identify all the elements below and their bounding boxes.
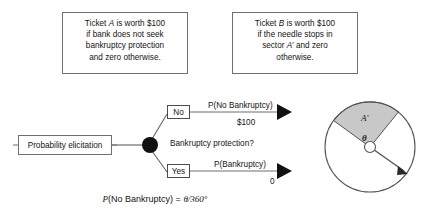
branch-option-no-label: No xyxy=(173,108,183,117)
figure-canvas: Ticket A is worth $100 if bank does not … xyxy=(0,0,436,219)
arrowhead-no-branch xyxy=(277,104,292,120)
formula-equals: = xyxy=(176,194,181,204)
formula-right-term: θ/360° xyxy=(183,194,207,204)
decision-node xyxy=(142,137,158,153)
probability-no-bankruptcy-label: P(No Bankruptcy) xyxy=(208,101,273,110)
edge-node-to-no xyxy=(152,114,167,139)
branch-option-yes[interactable]: Yes xyxy=(167,164,190,178)
probability-formula: PP(No Bankruptcy)(No Bankruptcy) = θ/360… xyxy=(0,194,310,204)
branch-option-yes-label: Yes xyxy=(172,167,185,176)
payoff-no-bankruptcy: $100 xyxy=(237,118,255,127)
probability-bankruptcy-label: P(Bankruptcy) xyxy=(214,160,266,169)
formula-left-text: (No Bankruptcy) xyxy=(108,194,173,204)
root-node-label: Probability elicitation xyxy=(28,141,103,150)
payoff-bankruptcy: 0 xyxy=(270,177,275,186)
wheel-needle-arrowhead xyxy=(397,166,408,175)
branch-option-no[interactable]: No xyxy=(167,105,190,119)
wheel-angle-label: θ xyxy=(362,133,367,143)
wheel-sector-label: A′ xyxy=(361,113,368,123)
arrowhead-yes-branch xyxy=(277,163,292,179)
root-node-probability-elicitation[interactable]: Probability elicitation xyxy=(18,135,112,155)
decision-question-label: Bankruptcy protection? xyxy=(170,139,254,148)
edge-node-to-yes xyxy=(152,151,167,172)
wheel-pivot xyxy=(365,142,376,153)
